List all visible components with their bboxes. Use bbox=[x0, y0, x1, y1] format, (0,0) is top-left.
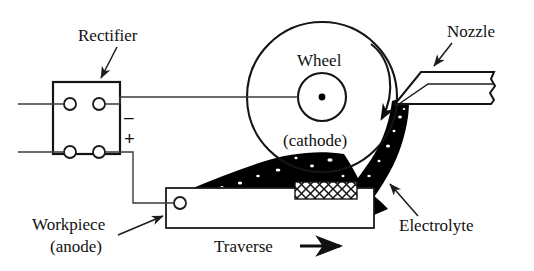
rectifier-terminal-ac-1 bbox=[64, 98, 76, 110]
label-anode: (anode) bbox=[50, 237, 102, 256]
rectifier-terminal-ac-2 bbox=[64, 146, 76, 158]
workpiece-body bbox=[166, 182, 374, 228]
label-traverse: Traverse bbox=[214, 237, 273, 256]
negative-sign: – bbox=[123, 106, 134, 127]
rectifier-leader bbox=[101, 47, 117, 78]
label-workpiece: Workpiece bbox=[32, 215, 105, 234]
wheel-center-dot bbox=[319, 94, 326, 101]
ecg-diagram: – + Rectifier Wheel (cathode) Nozzle Ele… bbox=[0, 0, 534, 271]
label-cathode: (cathode) bbox=[283, 131, 347, 150]
rectifier-terminal-dc-1 bbox=[93, 98, 105, 110]
label-electrolyte: Electrolyte bbox=[399, 216, 474, 235]
label-rectifier: Rectifier bbox=[78, 26, 138, 45]
rectifier-terminal-dc-2 bbox=[93, 146, 105, 158]
workpiece-leader bbox=[118, 216, 163, 235]
nozzle-outline bbox=[395, 72, 495, 104]
grinding-gap-hatch bbox=[295, 182, 357, 199]
nozzle-body bbox=[395, 72, 495, 104]
diagram-canvas: – + Rectifier Wheel (cathode) Nozzle Ele… bbox=[0, 0, 534, 271]
wheel-rotation-arrow bbox=[371, 44, 390, 118]
workpiece-terminal bbox=[174, 197, 186, 209]
positive-sign: + bbox=[124, 128, 135, 149]
label-wheel: Wheel bbox=[297, 51, 342, 70]
label-nozzle: Nozzle bbox=[447, 22, 495, 41]
wire-negative-to-wheel bbox=[105, 97, 298, 104]
electrolyte-leader bbox=[390, 184, 418, 216]
rectifier-unit bbox=[53, 82, 120, 158]
wire-positive-to-workpiece bbox=[105, 152, 174, 203]
nozzle-leader bbox=[434, 43, 452, 66]
rectifier-box bbox=[53, 82, 120, 154]
